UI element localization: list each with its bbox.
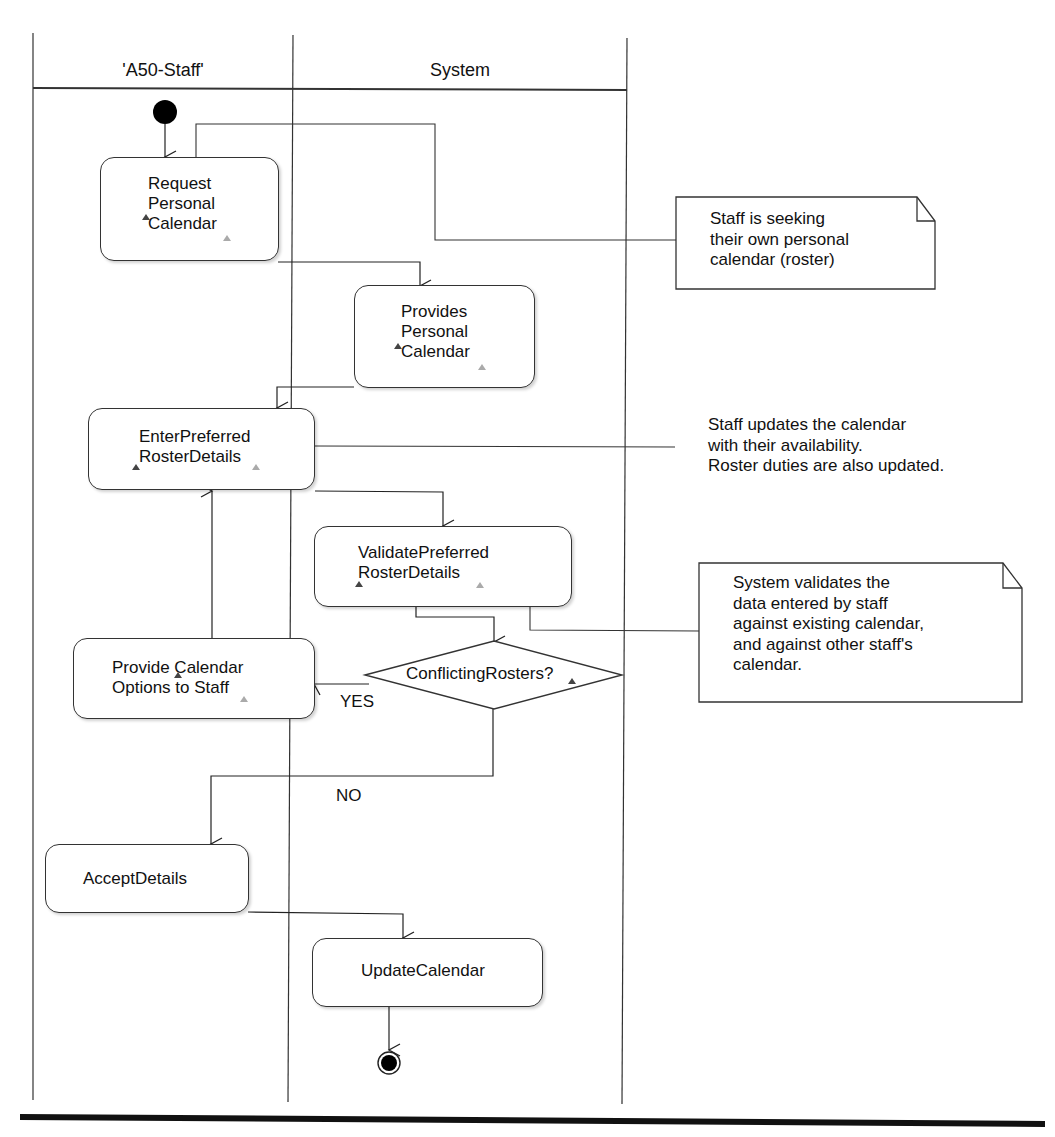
pin-icon [568,678,576,684]
flow-enter-to-validate [315,491,443,526]
activity-update-calendar[interactable]: UpdateCalendar [312,938,543,1007]
activity-label-line: RosterDetails [358,563,489,583]
pin-out-icon [240,696,248,702]
activity-label: UpdateCalendar [361,961,485,981]
pin-in-icon [394,343,402,349]
flow-decision-no [211,709,493,844]
note-text: System validates the data entered by sta… [733,573,924,676]
pin-in-icon [174,672,182,678]
no-label: NO [336,786,362,806]
activity-label: AcceptDetails [83,869,187,889]
yes-label: YES [340,692,374,712]
activity-label-line: Request [148,174,217,194]
activity-enter-preferred-roster-details[interactable]: EnterPreferred RosterDetails [88,408,315,490]
flow-provides-to-enter [277,387,354,408]
activity-label-line: RosterDetails [139,447,251,467]
pin-out-icon [476,582,484,588]
activity-validate-preferred-roster-details[interactable]: ValidatePreferred RosterDetails [314,526,572,607]
pin-out-icon [252,464,260,470]
activity-label-line: Calendar [148,214,217,234]
note-staff-updates: Staff updates the calendar with their av… [700,413,1020,483]
lane-title-system: System [293,60,627,81]
activity-label-line: Calendar [401,342,470,362]
initial-node-icon [153,100,177,124]
pin-out-icon [223,235,231,241]
activity-label-line: EnterPreferred [139,427,251,447]
activity-provides-personal-calendar[interactable]: Provides Personal Calendar [354,285,535,388]
activity-accept-details[interactable]: AcceptDetails [45,844,249,913]
activity-request-personal-calendar[interactable]: Request Personal Calendar [100,157,279,261]
activity-label-line: Options to Staff [112,678,243,698]
pin-in-icon [355,581,363,587]
activity-label-line: Personal [148,194,217,214]
activity-label-line: Provides [401,302,470,322]
flow-accept-to-update [248,912,403,938]
bottom-rule [20,1117,1045,1124]
pin-in-icon [132,464,140,470]
activity-provide-calendar-options[interactable]: Provide Calendar Options to Staff [73,638,315,719]
note-staff-seeking: Staff is seeking their own personal cale… [676,197,935,289]
note-system-validates: System validates the data entered by sta… [699,563,1022,702]
final-node-icon [378,1052,400,1074]
pin-in-icon [142,214,150,220]
flow-request-to-provides [278,262,420,286]
flow-validate-to-decision [416,607,494,642]
lane-title-staff: 'A50-Staff' [33,60,293,81]
pin-out-icon [478,364,486,370]
note-text: Staff updates the calendar with their av… [708,415,944,477]
activity-label-line: ValidatePreferred [358,543,489,563]
note2-connector [315,446,675,447]
note-text: Staff is seeking their own personal cale… [710,209,849,271]
activity-label-line: Personal [401,322,470,342]
decision-label: ConflictingRosters? [406,664,553,684]
note3-connector [530,606,699,631]
